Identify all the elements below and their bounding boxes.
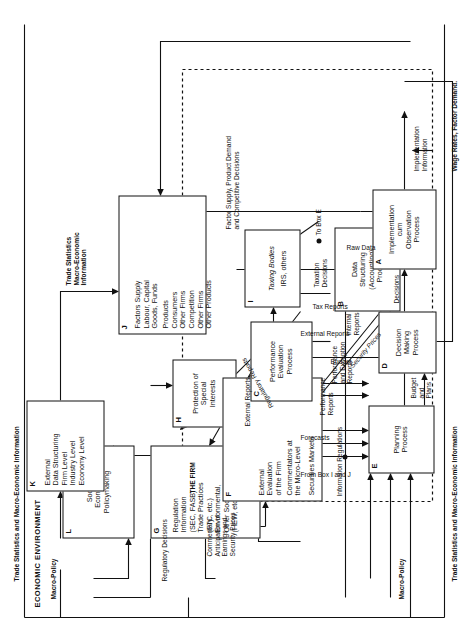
box-A-text: Implementation cum Observation Process xyxy=(387,190,421,268)
box-A-tag: A xyxy=(374,259,382,264)
label-from-box-i-and-j: From Box I and J xyxy=(300,470,350,478)
box-E-tag: E xyxy=(370,463,378,468)
label-wage-rates: Wage Rates, Factor Demand. xyxy=(450,80,458,171)
label-budget-and-plans: Budget and Plans xyxy=(409,377,432,398)
box-J-group2: Consumers Other Firms xyxy=(170,196,187,333)
label-forecasts: Forecasts xyxy=(300,433,329,441)
label-trade-stats-top: Trade Statistics and Macro-Economic Info… xyxy=(12,426,20,581)
box-H-text: Protection of Special Interests xyxy=(191,360,216,426)
box-J-tag: J xyxy=(120,325,128,329)
label-macro-policy-1: Macro-Policy xyxy=(49,558,57,599)
label-external-reports-main: External Reports xyxy=(300,329,349,337)
box-J-group1-title: Factors Supply xyxy=(133,196,141,333)
label-implementation-information: Implementation Information xyxy=(412,126,427,171)
box-C-text: Performance Evaluation Process xyxy=(268,322,293,400)
box-D[interactable]: D Decision Making Process xyxy=(378,311,436,373)
box-J-group2-title: Products xyxy=(161,196,169,333)
box-I-text: IRS, others xyxy=(279,230,287,306)
box-H-tag: H xyxy=(174,417,182,422)
box-F-tag: F xyxy=(224,491,232,496)
label-information-regulations: Information Regulations xyxy=(335,426,343,496)
box-J-group3-title: Competition xyxy=(187,196,195,333)
figure-page: L Socio- Economic Policymaking K Externa… xyxy=(0,0,468,641)
label-taxation-decisions: Taxation Decisions xyxy=(312,258,327,287)
box-J-group3: Other Firms Other Products xyxy=(196,196,213,333)
box-A[interactable]: A Implementation cum Observation Process xyxy=(372,189,436,269)
box-D-tag: D xyxy=(380,363,388,368)
diagram-canvas: L Socio- Economic Policymaking K Externa… xyxy=(0,0,468,641)
box-E[interactable]: E Planning Process xyxy=(368,405,434,473)
label-internal-reports: Internal Reports xyxy=(344,312,359,335)
label-decisions: Decisions xyxy=(392,274,400,303)
box-G-tag: G xyxy=(152,527,160,533)
label-regulatory-decisions: Regulatory Decisions xyxy=(160,519,168,581)
box-D-text: Decision Making Process xyxy=(394,312,419,372)
box-L-tag: L xyxy=(64,528,72,533)
label-external-reports-inner: External Reports xyxy=(243,377,251,426)
box-K-text: External Data Structuring Firm Level Ind… xyxy=(44,401,86,490)
box-E-text: Planning Process xyxy=(393,406,410,472)
box-I-text-italic: Taxing Bodies xyxy=(267,230,275,306)
label-macro-policy-2: Macro-Policy xyxy=(397,558,405,599)
label-factor-supply-demand: Factor Supply, Product Demand and Compet… xyxy=(224,136,239,229)
figure-title: ECONOMIC ENVIRONMENT xyxy=(33,499,42,607)
box-J-group1: Labour, Capital Goods, Funds xyxy=(142,196,159,333)
label-commentary: Commentary Anticipation of Earnings and … xyxy=(205,512,236,556)
label-the-firm: THE FIRM xyxy=(188,462,196,493)
label-budget: Budget xyxy=(330,357,351,365)
label-raw-data: Raw Data xyxy=(346,243,375,251)
box-J[interactable]: J Factors Supply Labour, Capital Goods, … xyxy=(118,195,206,334)
label-trade-stats-bottom: Trade Statistics and Macro-Economic Info… xyxy=(450,426,458,581)
box-I[interactable]: I Taxing Bodies IRS, others xyxy=(244,229,300,307)
box-I-tag: I xyxy=(246,300,254,302)
label-tax-reports: Tax Reports xyxy=(312,302,347,310)
box-K[interactable]: K External Data Structuring Firm Level I… xyxy=(26,400,104,491)
label-to-box-e: To Box E xyxy=(314,209,322,235)
label-trade-stats-k-to-j: Trade Statistics Macro-Economic Informat… xyxy=(64,232,87,285)
junction-dot-tobox-e xyxy=(316,238,321,243)
box-K-tag: K xyxy=(28,481,36,486)
